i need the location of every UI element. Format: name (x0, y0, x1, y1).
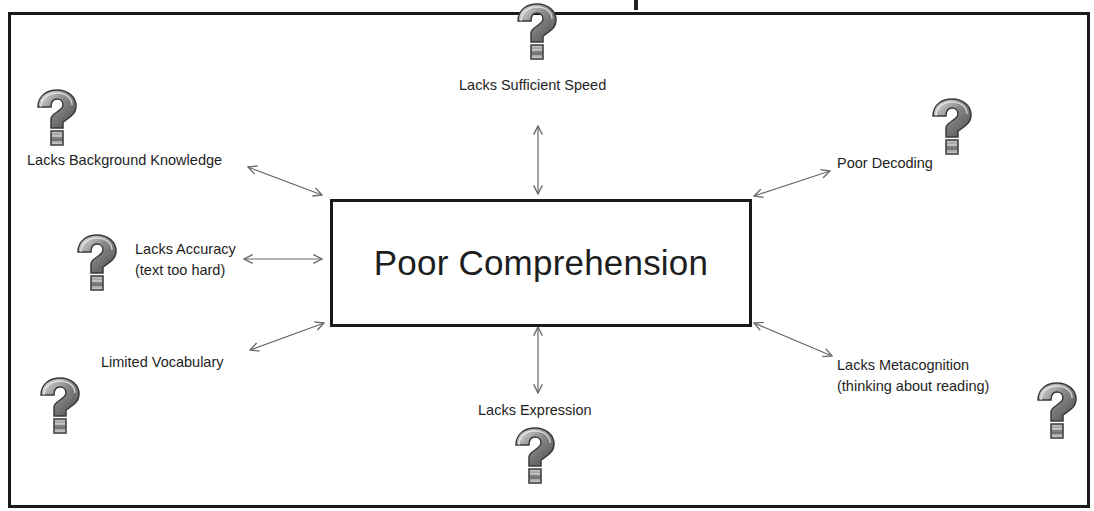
question-mark-icon (32, 89, 78, 147)
question-mark-icon (1032, 382, 1078, 440)
question-mark-icon (510, 427, 556, 485)
question-mark-icon (72, 234, 118, 292)
cause-label-speed: Lacks Sufficient Speed (459, 75, 606, 96)
cause-label-metacognition: Lacks Metacognition (thinking about read… (837, 355, 989, 397)
cause-label-background: Lacks Background Knowledge (27, 150, 222, 171)
cause-label-vocabulary: Limited Vocabulary (101, 352, 224, 373)
question-mark-icon (927, 98, 973, 156)
question-mark-icon (35, 377, 81, 435)
cause-label-accuracy: Lacks Accuracy (text too hard) (135, 239, 236, 281)
cause-label-expression: Lacks Expression (478, 400, 592, 421)
central-problem-box: Poor Comprehension (330, 199, 752, 327)
cause-label-decoding: Poor Decoding (837, 153, 933, 174)
top-edge-mark (634, 0, 638, 10)
question-mark-icon (512, 3, 558, 61)
central-problem-label: Poor Comprehension (374, 243, 708, 283)
